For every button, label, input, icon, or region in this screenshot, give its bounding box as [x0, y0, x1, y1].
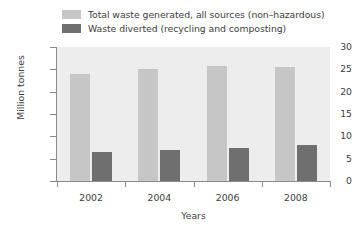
x-axis-tick-label: 2004	[129, 192, 189, 203]
y-axis-tick	[50, 47, 56, 48]
bar-2006-series-1	[207, 66, 227, 181]
y-axis-tick	[50, 114, 56, 115]
x-axis-tick-label: 2006	[198, 192, 258, 203]
bar-2002-series-2	[92, 152, 112, 181]
x-axis-tick-label: 2008	[266, 192, 326, 203]
x-axis-tick	[262, 181, 263, 187]
bar-chart: Total waste generated, all sources (non–…	[0, 0, 352, 236]
legend-swatch-waste-diverted	[62, 24, 81, 33]
y-axis-title: Million tonnes	[15, 38, 26, 138]
x-axis-tick-label: 2002	[61, 192, 121, 203]
bar-2008-series-2	[297, 145, 317, 181]
y-axis-tick	[50, 159, 56, 160]
y-axis-tick	[50, 69, 56, 70]
legend-label-waste-diverted: Waste diverted (recycling and composting…	[88, 23, 286, 34]
x-axis-tick	[194, 181, 195, 187]
legend-item-waste-diverted: Waste diverted (recycling and composting…	[62, 22, 325, 35]
bar-2002-series-1	[70, 74, 90, 181]
y-axis-tick	[50, 136, 56, 137]
y-axis-tick	[50, 92, 56, 93]
bar-2006-series-2	[229, 148, 249, 181]
bar-2004-series-1	[138, 69, 158, 181]
bars-layer	[57, 47, 330, 181]
x-axis-title: Years	[57, 210, 330, 221]
x-axis-tick	[330, 181, 331, 187]
legend-item-total-waste: Total waste generated, all sources (non–…	[62, 8, 325, 21]
bar-2004-series-2	[160, 150, 180, 181]
bar-2008-series-1	[275, 67, 295, 181]
y-axis-tick	[50, 181, 56, 182]
legend-label-total-waste: Total waste generated, all sources (non–…	[88, 9, 325, 20]
x-axis-tick	[125, 181, 126, 187]
legend-swatch-total-waste	[62, 10, 81, 19]
chart-legend: Total waste generated, all sources (non–…	[62, 8, 325, 35]
x-axis-tick	[57, 181, 58, 187]
